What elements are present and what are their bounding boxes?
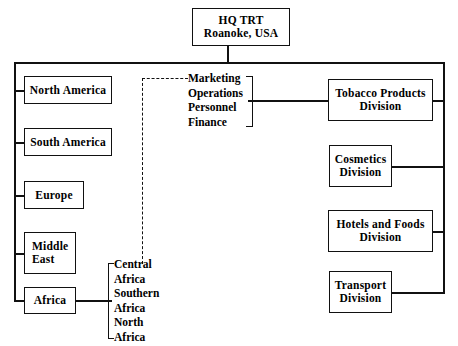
- division-label-hotels-line1: Hotels and Foods: [336, 218, 424, 231]
- region-box-europe[interactable]: Europe: [24, 181, 84, 209]
- region-label-middle-east-line2: East: [32, 253, 55, 266]
- hq-title-line1: HQ TRT: [219, 14, 264, 27]
- africa-to-units-connector: [76, 300, 112, 302]
- division-box-tobacco-products[interactable]: Tobacco Products Division: [328, 79, 433, 121]
- staff-dashed-vertical-line: [142, 78, 143, 264]
- stub-south-america: [14, 142, 24, 144]
- region-label-middle-east-line1: Middle: [32, 240, 68, 253]
- hq-box: HQ TRT Roanoke, USA: [192, 8, 290, 46]
- region-label-europe: Europe: [35, 189, 72, 202]
- africa-unit-north-line1: North: [114, 315, 159, 330]
- staff-dashed-horizontal-line: [142, 78, 188, 79]
- staff-label-personnel: Personnel: [188, 100, 243, 115]
- region-label-africa: Africa: [34, 294, 67, 307]
- division-label-tobacco-line2: Division: [360, 100, 402, 113]
- division-label-transport-line2: Division: [340, 292, 382, 305]
- region-label-south-america: South America: [30, 136, 106, 149]
- region-box-africa[interactable]: Africa: [24, 287, 76, 314]
- stub-cosmetics-division: [391, 166, 445, 168]
- staff-label-operations: Operations: [188, 86, 243, 101]
- staff-label-finance: Finance: [188, 115, 243, 130]
- stub-transport-division: [391, 292, 445, 294]
- staff-function-label-group: Marketing Operations Personnel Finance: [188, 71, 243, 129]
- region-box-middle-east[interactable]: Middle East: [24, 232, 76, 274]
- staff-to-divisions-connector: [253, 100, 328, 102]
- region-box-north-america[interactable]: North America: [24, 76, 112, 104]
- division-label-cosmetics-line2: Division: [340, 166, 382, 179]
- divisions-spine-line: [443, 62, 445, 293]
- stub-tobacco-division: [433, 100, 445, 102]
- region-box-south-america[interactable]: South America: [24, 128, 112, 156]
- africa-units-label-group: Central Africa Southern Africa North Afr…: [114, 257, 159, 345]
- hq-title-line2: Roanoke, USA: [204, 27, 279, 40]
- stub-hotels-foods-division: [433, 231, 445, 233]
- hq-drop-connector: [227, 46, 229, 63]
- division-label-tobacco-line1: Tobacco Products: [335, 87, 425, 100]
- stub-middle-east: [14, 253, 24, 255]
- division-label-cosmetics-line1: Cosmetics: [335, 153, 387, 166]
- regional-spine-line: [14, 62, 16, 301]
- division-label-hotels-line2: Division: [360, 231, 402, 244]
- africa-unit-central-line1: Central: [114, 257, 159, 272]
- stub-europe: [14, 195, 24, 197]
- division-label-transport-line1: Transport: [335, 279, 386, 292]
- africa-unit-southern-line1: Southern: [114, 286, 159, 301]
- staff-functions-bracket: [246, 76, 253, 127]
- stub-north-america: [14, 90, 24, 92]
- africa-unit-central-line2: Africa: [114, 272, 159, 287]
- division-box-hotels-foods[interactable]: Hotels and Foods Division: [328, 210, 433, 252]
- africa-unit-southern-line2: Africa: [114, 301, 159, 316]
- stub-africa: [14, 300, 24, 302]
- org-chart-canvas: HQ TRT Roanoke, USA North America South …: [0, 0, 458, 346]
- division-box-cosmetics[interactable]: Cosmetics Division: [329, 145, 392, 187]
- africa-unit-north-line2: Africa: [114, 330, 159, 345]
- main-bus-line: [14, 62, 445, 64]
- region-label-north-america: North America: [30, 84, 106, 97]
- staff-label-marketing: Marketing: [188, 71, 243, 86]
- division-box-transport[interactable]: Transport Division: [329, 271, 392, 313]
